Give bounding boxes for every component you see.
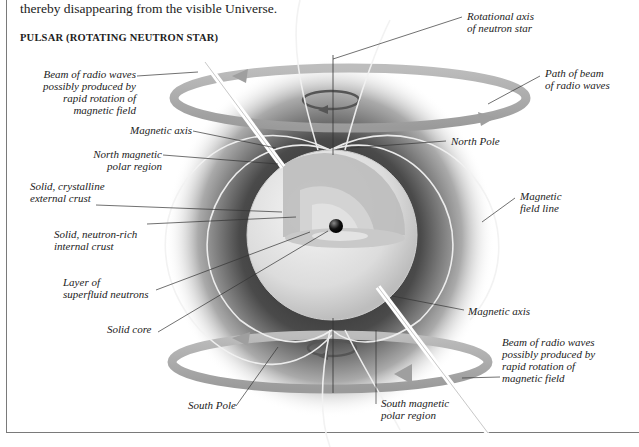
solid-core-sphere <box>329 219 343 233</box>
label-beam-top: Beam of radio waves possibly produced by… <box>30 68 136 116</box>
label-layer-of-superfluid-neutrons: Layer of superfluid neutrons <box>63 276 148 300</box>
label-magnetic-axis-bottom: Magnetic axis <box>468 305 530 317</box>
label-solid-core: Solid core <box>107 323 152 335</box>
label-south-pole: South Pole <box>188 399 236 411</box>
label-south-magnetic-polar-region: South magnetic polar region <box>381 397 449 421</box>
label-rotational-axis: Rotational axis of neutron star <box>467 10 534 34</box>
label-path-of-beam: Path of beam of radio waves <box>545 67 610 91</box>
label-beam-bottom: Beam of radio waves possibly produced by… <box>502 336 595 384</box>
label-north-pole: North Pole <box>451 135 500 147</box>
label-magnetic-axis-top: Magnetic axis <box>100 124 192 136</box>
label-magnetic-field-line: Magnetic field line <box>520 190 562 214</box>
label-solid-crystalline-external-crust: Solid, crystalline external crust <box>30 180 105 204</box>
label-solid-neutron-rich-internal-crust: Solid, neutron-rich internal crust <box>54 228 137 252</box>
neutron-star <box>247 150 417 320</box>
label-north-magnetic-polar-region: North magnetic polar region <box>60 148 162 172</box>
